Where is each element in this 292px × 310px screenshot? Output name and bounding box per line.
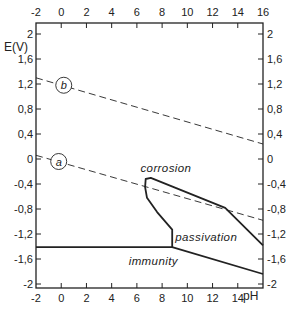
x-axis-title: pH [243,289,258,303]
x-tick-label-top: 8 [159,6,165,18]
region-label-corrosion: corrosion [140,162,191,174]
x-tick-label-top: 0 [58,6,64,18]
y-tick-label-left: 1,2 [18,78,33,90]
x-tick-label-bottom: 10 [181,292,193,304]
x-tick-label-top: -2 [31,6,41,18]
x-tick-label-top: 16 [257,6,269,18]
x-tick-label-top: 14 [232,6,244,18]
series-label-a: a [56,156,62,168]
region-label-immunity: immunity [129,255,179,267]
y-tick-label-left: -0,4 [14,178,33,190]
region-label-passivation: passivation [174,231,237,243]
x-tick-label-top: 4 [109,6,115,18]
y-tick-label-left: -2 [23,278,33,290]
x-tick-label-bottom: 8 [159,292,165,304]
y-tick-label-left: 0,8 [18,103,33,115]
y-tick-label-right: -2 [267,278,277,290]
x-tick-label-top: 6 [134,6,140,18]
y-tick-label-right: 0,4 [267,128,282,140]
y-tick-label-right: 0 [267,153,273,165]
y-tick-label-right: 0,8 [267,103,282,115]
y-tick-label-left: 0 [27,153,33,165]
y-tick-label-right: -0,4 [267,178,286,190]
y-tick-label-left: 1,6 [18,53,33,65]
y-tick-label-right: -1,2 [267,228,286,240]
y-tick-label-right: 2 [267,28,273,40]
x-tick-label-bottom: -2 [31,292,41,304]
x-tick-label-top: 2 [83,6,89,18]
plot-frame [36,23,263,288]
x-tick-label-top: 10 [181,6,193,18]
y-tick-label-left: -1,6 [14,253,33,265]
y-tick-label-right: -0,8 [267,203,286,215]
pourbaix-diagram: -2-2002244668810101212141416221,61,61,21… [0,0,292,310]
x-tick-label-bottom: 12 [206,292,218,304]
x-tick-label-top: 12 [206,6,218,18]
y-tick-label-left: 0,4 [18,128,33,140]
y-tick-label-right: 1,2 [267,78,282,90]
y-tick-label-left: -0,8 [14,203,33,215]
y-tick-label-right: 1,6 [267,53,282,65]
x-tick-label-bottom: 0 [58,292,64,304]
series-label-b: b [61,79,67,91]
y-axis-title: E(V) [4,40,28,54]
x-tick-label-bottom: 6 [134,292,140,304]
x-tick-label-bottom: 2 [83,292,89,304]
y-tick-label-left: -1,2 [14,228,33,240]
x-tick-label-bottom: 4 [109,292,115,304]
y-tick-label-right: -1,6 [267,253,286,265]
y-tick-label-left: 2 [27,28,33,40]
